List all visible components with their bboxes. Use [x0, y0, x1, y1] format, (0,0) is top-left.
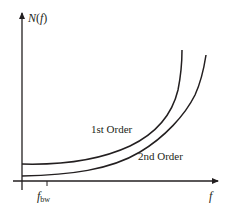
x-axis-label: f — [209, 189, 214, 203]
second-order-label: 2nd Order — [138, 150, 183, 162]
f-bw-label: fbw — [37, 189, 50, 204]
noise-vs-frequency-diagram: N(f) 1st Order 2nd Order fbw f — [0, 0, 231, 217]
y-axis-label: N(f) — [27, 11, 47, 25]
first-order-label: 1st Order — [91, 123, 133, 135]
first-order-curve — [22, 50, 182, 164]
